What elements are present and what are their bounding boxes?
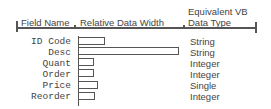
header-vb-type-line1: Equivalent VB <box>188 6 248 17</box>
data-type-label: Integer <box>190 91 220 102</box>
data-type-label: Single <box>190 80 216 91</box>
data-width-bar <box>78 81 98 89</box>
field-name-label: Desc <box>48 47 71 58</box>
axis-tick-left <box>16 21 18 32</box>
field-name-label: Price <box>42 80 71 91</box>
field-name-label: Quant <box>42 58 71 69</box>
data-type-label: Integer <box>190 58 220 69</box>
field-name-label: Order <box>42 69 71 80</box>
data-type-label: Integer <box>190 69 220 80</box>
field-name-label: ID Code <box>31 36 71 47</box>
data-width-bar <box>78 69 94 77</box>
axis-tick-right-inner <box>183 25 185 29</box>
data-width-bar <box>78 37 105 45</box>
field-width-diagram: Field Name Relative Data Width Equivalen… <box>0 0 271 109</box>
header-axis-line <box>17 27 256 29</box>
axis-tick-middle <box>74 25 76 29</box>
data-type-label: String <box>190 36 215 47</box>
data-width-bar <box>78 92 95 100</box>
data-width-bar <box>78 47 179 55</box>
axis-tick-right <box>255 22 257 33</box>
data-type-label: String <box>190 47 215 58</box>
field-name-label: Reorder <box>31 91 71 102</box>
data-width-bar <box>78 58 94 66</box>
